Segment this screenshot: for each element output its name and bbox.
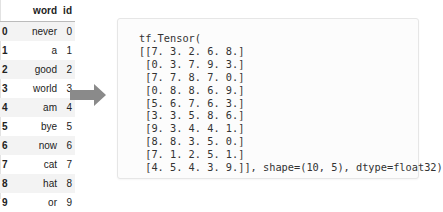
- table-row: 0never0: [0, 22, 75, 42]
- table-row: 6now6: [0, 136, 75, 155]
- cell-word: bye: [18, 117, 60, 136]
- arrow-shape: [70, 84, 106, 106]
- dataframe-table: word id 0never01a12good23world34am45bye5…: [0, 0, 75, 212]
- tensor-row: [7. 7. 8. 7. 0.]: [139, 71, 244, 83]
- tensor-header: tf.Tensor(: [139, 32, 201, 44]
- tensor-row: [3. 3. 5. 8. 6.]: [139, 109, 244, 121]
- cell-word: or: [18, 193, 60, 212]
- table-row: 2good2: [0, 60, 75, 79]
- tensor-row: [8. 8. 3. 5. 0.]: [139, 135, 244, 147]
- header-id: id: [60, 0, 75, 22]
- row-index: 2: [0, 60, 18, 79]
- cell-id: 7: [60, 155, 75, 174]
- tensor-row: [5. 6. 7. 6. 3.]: [139, 97, 244, 109]
- tensor-code: tf.Tensor( [[7. 3. 2. 6. 8.] [0. 3. 7. 9…: [139, 32, 443, 174]
- row-index: 4: [0, 98, 18, 117]
- right-arrow-icon: [68, 84, 108, 106]
- tensor-row: [7. 1. 2. 5. 1.]: [139, 148, 244, 160]
- row-index: 1: [0, 41, 18, 60]
- cell-id: 0: [60, 22, 75, 42]
- table-row: 9or9: [0, 193, 75, 212]
- cell-id: 9: [60, 193, 75, 212]
- cell-id: 1: [60, 41, 75, 60]
- tensor-row: [9. 3. 4. 4. 1.]: [139, 122, 244, 134]
- table-row: 8hat8: [0, 174, 75, 193]
- tensor-row: [4. 5. 4. 3. 9.]], shape=(10, 5), dtype=…: [139, 161, 443, 173]
- header-index: [0, 0, 18, 22]
- table-row: 1a1: [0, 41, 75, 60]
- header-word: word: [18, 0, 60, 22]
- table-row: 5bye5: [0, 117, 75, 136]
- row-index: 0: [0, 22, 18, 42]
- cell-word: cat: [18, 155, 60, 174]
- cell-id: 2: [60, 60, 75, 79]
- cell-id: 6: [60, 136, 75, 155]
- cell-word: hat: [18, 174, 60, 193]
- row-index: 6: [0, 136, 18, 155]
- row-index: 3: [0, 79, 18, 98]
- tensor-row: [0. 8. 8. 6. 9.]: [139, 84, 244, 96]
- tensor-row: [0. 3. 7. 9. 3.]: [139, 58, 244, 70]
- cell-id: 5: [60, 117, 75, 136]
- cell-word: world: [18, 79, 60, 98]
- tensor-row: [[7. 3. 2. 6. 8.]: [139, 45, 244, 57]
- cell-id: 8: [60, 174, 75, 193]
- tensor-output-box: tf.Tensor( [[7. 3. 2. 6. 8.] [0. 3. 7. 9…: [117, 18, 419, 179]
- cell-word: never: [18, 22, 60, 42]
- table-header-row: word id: [0, 0, 75, 22]
- tensor-rows: [[7. 3. 2. 6. 8.] [0. 3. 7. 9. 3.] [7. 7…: [139, 45, 443, 173]
- row-index: 5: [0, 117, 18, 136]
- row-index: 7: [0, 155, 18, 174]
- cell-word: am: [18, 98, 60, 117]
- cell-word: a: [18, 41, 60, 60]
- table-row: 3world3: [0, 79, 75, 98]
- row-index: 8: [0, 174, 18, 193]
- cell-word: now: [18, 136, 60, 155]
- table-row: 4am4: [0, 98, 75, 117]
- row-index: 9: [0, 193, 18, 212]
- cell-word: good: [18, 60, 60, 79]
- table-row: 7cat7: [0, 155, 75, 174]
